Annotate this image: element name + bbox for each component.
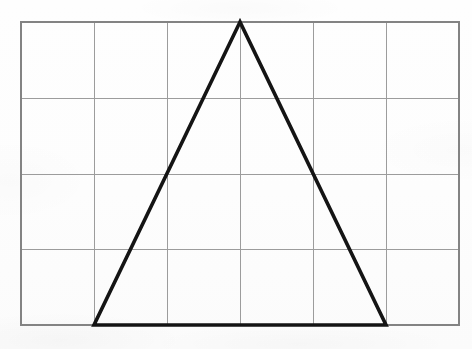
triangle-grid-figure [0, 0, 472, 349]
scanned-figure-page: Isosceles triangle drawn on a rectangula… [0, 0, 472, 349]
